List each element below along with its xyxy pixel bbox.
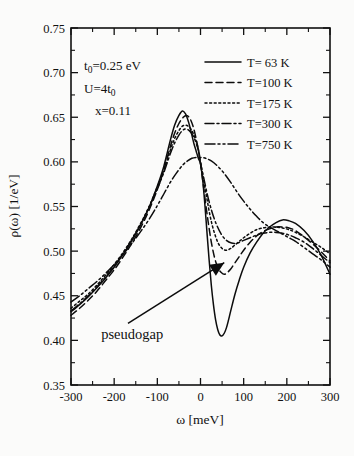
curve-750K [71,157,330,302]
y-tick-label: 0.35 [43,379,65,393]
legend-label-100: T=100 K [247,76,293,90]
y-tick-label: 0.70 [43,66,65,80]
annotations: pseudogap [101,263,224,342]
y-axis-title: ρ(ω) [1/eV] [6,174,21,237]
x-tick-labels: -300-200-1000100200300 [60,390,340,404]
curve-300K [71,129,330,311]
x-axis-title: ω [meV] [176,412,224,427]
param-line-1: t0=0.25 eV [84,58,141,75]
curve-175K [71,125,330,308]
y-tick-label: 0.45 [43,289,65,303]
density-of-states-chart: -300-200-1000100200300 0.350.400.450.500… [0,0,354,456]
y-tick-label: 0.55 [43,200,65,214]
param-t0-value: =0.25 eV [92,58,141,73]
legend-label-750: T=750 K [247,138,293,152]
legend-label-300: T=300 K [247,117,293,131]
param-line-2: U=4t0 [84,81,116,98]
x-tick-label: 300 [321,390,340,404]
pseudogap-annotation-label: pseudogap [101,326,163,342]
parameter-box: t0=0.25 eV U=4t0 x=0.11 [84,58,141,118]
legend-label-175: T=175 K [247,97,293,111]
x-tick-label: 200 [277,390,296,404]
legend-label-63: T= 63 K [247,56,289,70]
param-line-3: x=0.11 [95,103,131,118]
x-tick-label: 100 [234,390,253,404]
legend: T= 63 KT=100 KT=175 KT=300 KT=750 K [205,56,293,152]
y-tick-label: 0.40 [43,334,65,348]
x-tick-label: 0 [197,390,203,404]
y-tick-label: 0.75 [43,22,65,36]
param-u-subscript: 0 [111,88,116,98]
figure-container: -300-200-1000100200300 0.350.400.450.500… [0,0,354,456]
y-tick-label: 0.60 [43,155,65,169]
x-tick-label: -200 [103,390,126,404]
y-tick-label: 0.50 [43,245,65,259]
y-tick-labels: 0.350.400.450.500.550.600.650.700.75 [43,22,65,393]
x-tick-label: -100 [146,390,169,404]
pseudogap-arrow-line [128,263,224,324]
y-tick-label: 0.65 [43,111,65,125]
param-u-symbol: U=4t [84,81,111,96]
